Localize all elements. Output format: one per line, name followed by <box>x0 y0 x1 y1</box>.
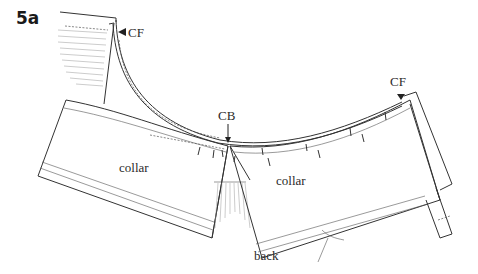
front-bodice-piece <box>58 12 116 104</box>
back-piece <box>212 146 250 238</box>
cf-top-arrow-icon <box>118 28 126 36</box>
neckline-curve <box>113 20 402 146</box>
back-label: back <box>254 248 279 264</box>
cb-arrow-icon <box>225 137 231 143</box>
cb-label: CB <box>218 108 235 124</box>
figure-number: 5a <box>16 8 39 28</box>
cf-top-label: CF <box>128 25 144 41</box>
collar-right-label: collar <box>276 173 306 189</box>
front-extension-strip <box>404 92 452 238</box>
cf-right-label: CF <box>390 74 406 90</box>
collar-left-label: collar <box>119 160 149 176</box>
collar-pattern-figure: 5a CF CF CB collar collar back <box>0 0 478 274</box>
cf-right-arrow-icon <box>397 94 405 100</box>
collar-pattern-drawing <box>0 0 478 274</box>
right-collar-piece <box>230 100 440 262</box>
